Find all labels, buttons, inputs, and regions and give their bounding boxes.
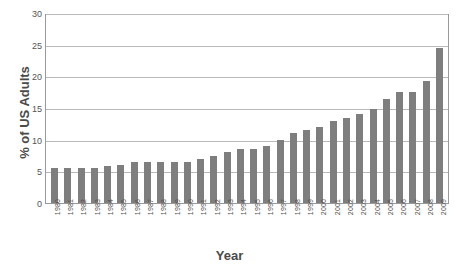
- x-tick-slot: 2009: [437, 205, 444, 245]
- bar: [157, 162, 164, 203]
- x-tick-label: 1989: [174, 199, 181, 215]
- x-tick-slot: 2001: [330, 205, 337, 245]
- x-tick-slot: 2000: [317, 205, 324, 245]
- x-tick-slot: 1980: [50, 205, 57, 245]
- bar: [91, 168, 98, 203]
- bar: [383, 99, 390, 204]
- x-tick-slot: 1999: [303, 205, 310, 245]
- x-tick-label: 1993: [227, 199, 234, 215]
- x-tick-slot: 1990: [183, 205, 190, 245]
- x-tick-slot: 1982: [77, 205, 84, 245]
- x-tick-slot: 2004: [370, 205, 377, 245]
- x-tick-label: 2000: [320, 199, 327, 215]
- bar: [171, 162, 178, 203]
- y-tick-label: 5: [18, 167, 42, 177]
- x-tick-slot: 2002: [343, 205, 350, 245]
- y-tick-label: 25: [18, 41, 42, 51]
- x-tick-slot: 1983: [90, 205, 97, 245]
- x-tick-slot: 2008: [423, 205, 430, 245]
- x-tick-slot: 1987: [143, 205, 150, 245]
- x-tick-slot: 1994: [237, 205, 244, 245]
- x-tick-slot: 2003: [357, 205, 364, 245]
- bar: [277, 140, 284, 203]
- bar: [250, 149, 257, 203]
- bar: [64, 168, 71, 203]
- x-tick-slot: 1988: [157, 205, 164, 245]
- x-axis-tick-labels: 1980198119821983198419851986198719881989…: [45, 205, 449, 245]
- x-tick-label: 2001: [334, 199, 341, 215]
- x-tick-label: 1990: [187, 199, 194, 215]
- x-tick-label: 1997: [280, 199, 287, 215]
- y-tick-label: 10: [18, 136, 42, 146]
- x-tick-label: 2009: [440, 199, 447, 215]
- y-axis-tick-labels: 051015202530: [18, 14, 42, 204]
- x-tick-label: 1986: [134, 199, 141, 215]
- x-tick-label: 1980: [54, 199, 61, 215]
- y-tick-label: 15: [18, 104, 42, 114]
- bar: [330, 121, 337, 203]
- bar: [409, 92, 416, 203]
- bar: [237, 149, 244, 203]
- x-tick-label: 1983: [94, 199, 101, 215]
- x-tick-slot: 1995: [250, 205, 257, 245]
- x-tick-label: 1982: [80, 199, 87, 215]
- bar: [131, 162, 138, 203]
- bar: [144, 162, 151, 203]
- x-tick-slot: 1989: [170, 205, 177, 245]
- y-tick-label: 0: [18, 199, 42, 209]
- bar: [436, 48, 443, 203]
- x-tick-label: 2008: [427, 199, 434, 215]
- bar: [78, 168, 85, 203]
- bar: [51, 168, 58, 203]
- x-tick-slot: 1998: [290, 205, 297, 245]
- bar: [210, 156, 217, 204]
- x-tick-label: 2004: [374, 199, 381, 215]
- x-axis-title: Year: [0, 248, 459, 263]
- bar: [356, 114, 363, 203]
- x-tick-slot: 2007: [410, 205, 417, 245]
- x-tick-slot: 2006: [397, 205, 404, 245]
- bar-series: [46, 15, 448, 203]
- bar-chart: % of US Adults 051015202530 198019811982…: [0, 0, 459, 270]
- x-tick-label: 1985: [120, 199, 127, 215]
- x-tick-label: 1998: [294, 199, 301, 215]
- x-tick-slot: 1996: [263, 205, 270, 245]
- x-tick-slot: 1981: [63, 205, 70, 245]
- x-tick-slot: 1993: [223, 205, 230, 245]
- x-tick-slot: 1991: [197, 205, 204, 245]
- y-tick-label: 30: [18, 9, 42, 19]
- x-tick-label: 1991: [200, 199, 207, 215]
- x-tick-label: 2007: [414, 199, 421, 215]
- bar: [263, 146, 270, 203]
- x-tick-label: 2005: [387, 199, 394, 215]
- x-tick-label: 1988: [160, 199, 167, 215]
- x-tick-label: 1994: [240, 199, 247, 215]
- bar: [343, 118, 350, 204]
- x-tick-label: 2006: [400, 199, 407, 215]
- x-tick-label: 1992: [214, 199, 221, 215]
- bar: [104, 166, 111, 203]
- x-tick-slot: 1984: [103, 205, 110, 245]
- bar: [290, 133, 297, 203]
- bar: [303, 130, 310, 203]
- x-tick-label: 1984: [107, 199, 114, 215]
- x-tick-label: 1999: [307, 199, 314, 215]
- x-tick-label: 2003: [360, 199, 367, 215]
- x-tick-label: 1981: [67, 199, 74, 215]
- x-tick-slot: 2005: [383, 205, 390, 245]
- x-tick-label: 1995: [254, 199, 261, 215]
- bar: [117, 165, 124, 203]
- y-tick-label: 20: [18, 72, 42, 82]
- x-tick-slot: 1997: [277, 205, 284, 245]
- bar: [184, 162, 191, 203]
- x-tick-label: 1987: [147, 199, 154, 215]
- plot-area: [45, 14, 449, 204]
- x-tick-label: 1996: [267, 199, 274, 215]
- x-tick-slot: 1986: [130, 205, 137, 245]
- bar: [224, 152, 231, 203]
- x-tick-slot: 1992: [210, 205, 217, 245]
- bar: [316, 127, 323, 203]
- x-tick-slot: 1985: [117, 205, 124, 245]
- bar: [423, 81, 430, 203]
- x-tick-label: 2002: [347, 199, 354, 215]
